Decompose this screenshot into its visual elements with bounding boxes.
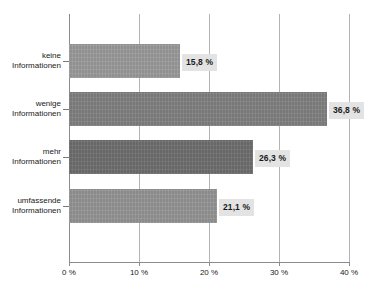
x-tick-mark-30 xyxy=(279,262,280,266)
plot-area xyxy=(69,14,349,262)
category-label-line1: mehr xyxy=(0,147,61,157)
value-label-mehr-informationen: 26,3 % xyxy=(255,150,290,167)
category-label-line2: Informationen xyxy=(0,157,61,167)
bar-umfassende-informationen[interactable] xyxy=(69,189,217,223)
gridline-30-percent xyxy=(279,14,280,262)
y-tick-wenige-informationen xyxy=(63,109,69,110)
x-tick-label-40: 40 % xyxy=(329,268,369,277)
category-label-keine-informationen: keine Informationen xyxy=(0,51,61,71)
bar-texture xyxy=(69,140,253,174)
x-tick-mark-10 xyxy=(139,262,140,266)
bar-texture xyxy=(69,189,217,223)
category-label-umfassende-informationen: umfassende Informationen xyxy=(0,196,61,216)
x-tick-label-20: 20 % xyxy=(189,268,229,277)
category-label-line1: wenige xyxy=(0,99,61,109)
category-label-line2: Informationen xyxy=(0,61,61,71)
x-tick-mark-20 xyxy=(209,262,210,266)
bar-mehr-informationen[interactable] xyxy=(69,140,253,174)
x-tick-mark-0 xyxy=(69,262,70,266)
category-label-line2: Informationen xyxy=(0,206,61,216)
x-tick-mark-40 xyxy=(349,262,350,266)
gridline-20-percent xyxy=(209,14,210,262)
value-label-wenige-informationen: 36,8 % xyxy=(329,102,364,119)
x-tick-label-0: 0 % xyxy=(49,268,89,277)
y-tick-umfassende-informationen xyxy=(63,206,69,207)
y-tick-mehr-informationen xyxy=(63,157,69,158)
value-label-keine-informationen: 15,8 % xyxy=(182,54,217,71)
y-tick-keine-informationen xyxy=(63,61,69,62)
x-tick-label-30: 30 % xyxy=(259,268,299,277)
category-label-line1: umfassende xyxy=(0,196,61,206)
gridline-40-percent xyxy=(349,14,350,262)
bar-texture xyxy=(69,44,180,78)
category-label-line2: Informationen xyxy=(0,109,61,119)
category-label-mehr-informationen: mehr Informationen xyxy=(0,147,61,167)
value-label-umfassende-informationen: 21,1 % xyxy=(219,199,254,216)
bar-keine-informationen[interactable] xyxy=(69,44,180,78)
x-tick-label-10: 10 % xyxy=(119,268,159,277)
bar-texture xyxy=(69,92,327,126)
category-label-wenige-informationen: wenige Informationen xyxy=(0,99,61,119)
bar-wenige-informationen[interactable] xyxy=(69,92,327,126)
category-label-line1: keine xyxy=(0,51,61,61)
bar-chart: 15,8 % 36,8 % 26,3 % 21,1 % keine Inform… xyxy=(0,0,372,291)
